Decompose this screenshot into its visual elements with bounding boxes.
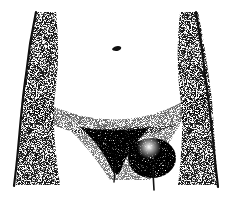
torso-drawing	[0, 0, 234, 198]
anatomical-illustration	[0, 0, 234, 198]
inguinal-bulge-highlight	[137, 135, 161, 159]
navel	[112, 46, 121, 51]
